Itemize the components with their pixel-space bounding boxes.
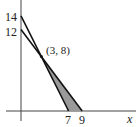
x-axis-label: x	[127, 113, 132, 125]
y-tick-14: 14	[5, 11, 17, 23]
y-tick-12: 12	[5, 26, 17, 38]
line-14-to-7	[21, 16, 69, 111]
chart-canvas	[0, 0, 138, 127]
x-tick-9: 9	[79, 114, 85, 126]
point-annotation: (3, 8)	[46, 45, 70, 56]
intersection-point	[40, 55, 43, 58]
x-tick-7: 7	[65, 114, 71, 126]
line-12-to-9	[21, 29, 82, 111]
